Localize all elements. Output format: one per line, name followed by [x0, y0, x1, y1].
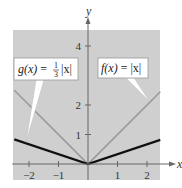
y-axis-arrow	[86, 17, 91, 24]
y-tick-label: 2	[76, 99, 82, 111]
x-tick-label: −2	[23, 169, 35, 181]
x-tick-label: 1	[115, 169, 121, 181]
f-label-eq: =	[118, 61, 131, 75]
chart: xy−2−112124 g(x) = 13|x|f(x) = |x|	[0, 0, 182, 188]
g-label-lhs: g(x)	[18, 62, 37, 76]
x-tick-label: −1	[53, 169, 65, 181]
x-tick-label: 2	[144, 169, 150, 181]
x-axis-arrow	[169, 162, 176, 167]
y-tick-label: 1	[76, 129, 82, 141]
f-label-lhs: f(x)	[101, 61, 118, 75]
x-axis-label: x	[176, 157, 182, 171]
g-label-text: g(x) =	[18, 62, 47, 76]
g-label-rhs: |x|	[61, 62, 72, 76]
y-axis-label: y	[85, 4, 92, 18]
y-tick-label: 4	[76, 40, 82, 52]
g-label-eq: =	[37, 62, 47, 76]
g-label-numerator: 1	[54, 61, 58, 70]
f-label-rhs: |x|	[130, 61, 141, 75]
f-label-text: f(x) = |x|	[101, 61, 141, 75]
g-label-denominator: 3	[54, 70, 58, 79]
